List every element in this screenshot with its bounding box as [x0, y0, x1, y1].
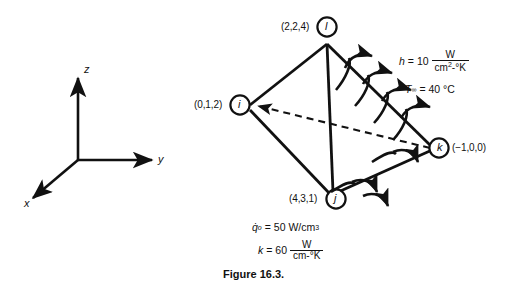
k-fraction: W cm-°K [290, 240, 323, 261]
h-fraction: W cm2-°K [432, 50, 469, 73]
h-equals: = 10 [408, 56, 429, 67]
k-numerator: W [299, 240, 314, 250]
node-coords-i: (0,1,2) [194, 100, 222, 110]
ambient-temperature-label: T∞ = 40 °C [405, 84, 455, 95]
figure-drawing [0, 0, 510, 294]
node-coords-l: (2,2,4) [281, 22, 309, 32]
k-denominator: cm-°K [290, 250, 323, 261]
h-denominator: cm2-°K [432, 60, 469, 73]
figure-caption: Figure 16.3. [223, 268, 284, 280]
q-value: = 50 W/cm [265, 222, 315, 233]
axis-label-y: y [158, 154, 164, 165]
k-symbol: k [258, 245, 263, 256]
k-equals: = 60 [266, 245, 287, 256]
node-coords-k: (−1,0,0) [452, 143, 486, 153]
edge-i-j [250, 110, 330, 194]
convection-coefficient-formula: h = 10 W cm2-°K [399, 50, 469, 73]
node-label-l: l [325, 21, 327, 32]
q-subscript: o [258, 224, 262, 231]
axis-label-x: x [24, 198, 30, 209]
tetrahedron-nodes [230, 17, 448, 208]
node-label-j: j [334, 193, 336, 204]
edge-l-j [327, 44, 333, 192]
figure-16-3: z y x l i j k (2,2,4) (0,1,2) (4,3,1) (−… [0, 0, 510, 294]
edge-l-i [250, 44, 327, 105]
q-exponent: 3 [315, 224, 319, 231]
edge-j-k [336, 150, 432, 193]
heat-generation-formula: q̇o = 50 W/cm3 [252, 222, 319, 233]
node-coords-j: (4,3,1) [289, 194, 317, 204]
axis-label-z: z [84, 64, 90, 75]
tinf-value: = 40 °C [419, 84, 454, 95]
h-symbol: h [399, 56, 405, 67]
h-numerator: W [442, 50, 457, 60]
thermal-conductivity-formula: k = 60 W cm-°K [258, 240, 323, 261]
tinf-subscript: ∞ [411, 86, 416, 93]
node-label-k: k [437, 142, 443, 153]
coordinate-axes [33, 78, 152, 198]
node-label-i: i [238, 99, 240, 110]
